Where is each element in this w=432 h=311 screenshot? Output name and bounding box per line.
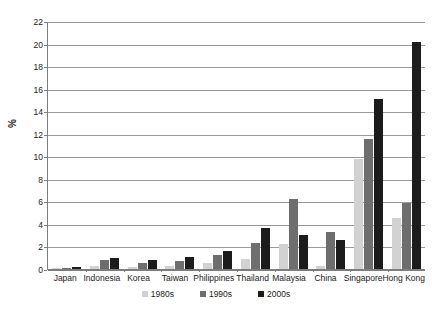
bar-group	[161, 22, 199, 269]
bar-chart: % 0246810121416182022 JapanIndonesiaKore…	[0, 0, 432, 311]
bar-group	[312, 22, 350, 269]
x-axis-tick-label: Malaysia	[271, 273, 307, 283]
x-axis-tick-mark	[124, 269, 125, 272]
y-axis-tick-label: 22	[21, 17, 43, 27]
bar	[241, 259, 250, 269]
bar	[392, 218, 401, 269]
y-axis-tick-label: 12	[21, 130, 43, 140]
bar	[261, 228, 270, 269]
y-axis-tick-label: 4	[21, 220, 43, 230]
bar	[213, 255, 222, 269]
x-axis-tick-mark	[86, 269, 87, 272]
bar	[52, 268, 61, 269]
bar	[336, 240, 345, 269]
bar	[412, 42, 421, 269]
bar-groups	[48, 22, 425, 269]
x-axis-tick-label: Korea	[120, 273, 156, 283]
y-axis-tick-label: 18	[21, 62, 43, 72]
x-axis-tick-mark	[275, 269, 276, 272]
x-axis-tick-mark	[237, 269, 238, 272]
bar-group	[48, 22, 86, 269]
bar-group	[123, 22, 161, 269]
bar-group	[237, 22, 275, 269]
x-axis-tick-mark	[199, 269, 200, 272]
legend-item[interactable]: 1980s	[142, 289, 174, 299]
bar	[364, 139, 373, 269]
y-axis-label: %	[7, 119, 18, 128]
x-axis-tick-label: China	[307, 273, 343, 283]
x-axis-tick-mark	[313, 269, 314, 272]
bar-group	[350, 22, 388, 269]
plot-area	[47, 22, 425, 270]
bar	[185, 257, 194, 269]
x-axis-tick-label: Taiwan	[157, 273, 193, 283]
x-axis-tick-mark	[161, 269, 162, 272]
x-axis-tick-label: Thailand	[234, 273, 270, 283]
bar	[175, 261, 184, 269]
legend-item[interactable]: 2000s	[258, 289, 290, 299]
x-axis-tick-label: Singapore	[344, 273, 383, 283]
bar-group	[86, 22, 124, 269]
bar	[299, 235, 308, 269]
bar	[90, 266, 99, 269]
y-axis-tick-label: 16	[21, 85, 43, 95]
bar	[203, 263, 212, 269]
bar-group	[387, 22, 425, 269]
y-axis-tick-label: 10	[21, 152, 43, 162]
bar-group	[199, 22, 237, 269]
legend-swatch-icon	[142, 291, 148, 297]
x-axis-tick-label: Hong Kong	[382, 273, 425, 283]
x-axis-tick-label: Indonesia	[83, 273, 120, 283]
bar	[251, 243, 260, 269]
bar	[100, 260, 109, 269]
legend-label: 1980s	[151, 289, 174, 299]
bar	[62, 268, 71, 269]
bar	[128, 267, 137, 269]
bar-group	[274, 22, 312, 269]
x-axis-tick-label: Japan	[47, 273, 83, 283]
bar	[354, 159, 363, 269]
x-axis-tick-mark	[388, 269, 389, 272]
bar	[326, 232, 335, 269]
y-axis-tick-mark	[44, 270, 47, 271]
legend-item[interactable]: 1990s	[200, 289, 232, 299]
y-axis-tick-label: 6	[21, 197, 43, 207]
bar	[289, 199, 298, 269]
bar	[402, 203, 411, 270]
y-axis-tick-label: 2	[21, 242, 43, 252]
bar	[223, 251, 232, 269]
bar	[279, 244, 288, 269]
y-axis-tick-label: 8	[21, 175, 43, 185]
bar	[72, 267, 81, 269]
legend-swatch-icon	[200, 291, 206, 297]
bar	[316, 266, 325, 269]
x-axis-labels: JapanIndonesiaKoreaTaiwanPhilippinesThai…	[47, 273, 425, 283]
y-axis-tick-label: 14	[21, 107, 43, 117]
legend-label: 2000s	[267, 289, 290, 299]
chart-legend: 1980s1990s2000s	[0, 289, 432, 299]
y-axis-tick-label: 0	[21, 265, 43, 275]
x-axis-tick-mark	[350, 269, 351, 272]
bar	[374, 99, 383, 269]
bar	[138, 263, 147, 269]
bar	[148, 260, 157, 269]
y-axis-tick-label: 20	[21, 40, 43, 50]
bar	[165, 266, 174, 269]
legend-label: 1990s	[209, 289, 232, 299]
bar	[110, 258, 119, 269]
legend-swatch-icon	[258, 291, 264, 297]
x-axis-tick-label: Philippines	[193, 273, 234, 283]
